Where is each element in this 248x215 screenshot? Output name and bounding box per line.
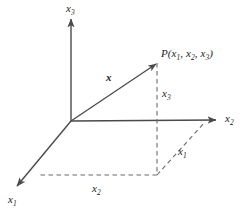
position-vector-x-line [71, 64, 156, 121]
x1-axis-line [17, 121, 71, 186]
projection-lines-group [38, 63, 205, 175]
x3-axis-label: x3 [66, 3, 75, 14]
component-label-x1: x1 [178, 146, 187, 157]
diagram-svg [0, 0, 248, 215]
vector-group [71, 64, 156, 121]
x2-axis-line [71, 120, 216, 121]
component-label-x2: x2 [92, 183, 101, 194]
figure-canvas: x3 x2 x1 x P(x1, x2, x3) x3 x1 x2 [0, 0, 248, 215]
position-vector-label: x [106, 72, 112, 83]
axes-group [17, 19, 216, 186]
point-P-component-2: x2 [186, 47, 195, 59]
point-P-label: P(x1, x2, x3) [161, 48, 213, 59]
point-P-close-paren: ) [209, 47, 213, 59]
x2-axis-label: x2 [225, 113, 234, 124]
component-label-x3: x3 [162, 88, 171, 99]
point-P-component-3: x3 [200, 47, 209, 59]
point-P-prefix: P [161, 47, 168, 59]
x1-axis-label: x1 [8, 194, 17, 205]
